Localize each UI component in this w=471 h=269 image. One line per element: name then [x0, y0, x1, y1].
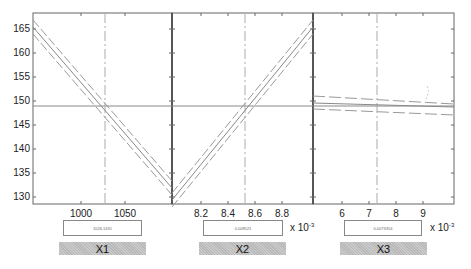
x2-label: X2 [199, 242, 286, 255]
axes-x2 [172, 13, 313, 204]
y-tick-labels: 165 160 155 150 145 140 135 130 [13, 23, 30, 202]
svg-text:8.2: 8.2 [194, 208, 208, 219]
x-tick-labels: 1000 1050 8.2 8.4 8.6 8.8 6 7 8 9 [70, 208, 426, 219]
x3-curves [313, 86, 454, 115]
x1-curves [33, 20, 172, 195]
svg-text:8: 8 [393, 208, 399, 219]
x2-exponent-label: x 10-3 [290, 222, 314, 233]
x1-label: X1 [59, 242, 146, 255]
axes-x3 [313, 13, 454, 204]
svg-text:8.6: 8.6 [248, 208, 262, 219]
x2-curves [172, 20, 313, 207]
svg-text:140: 140 [13, 143, 30, 154]
x2-value-input[interactable]: 0.008521 [203, 220, 283, 236]
svg-text:8.4: 8.4 [221, 208, 235, 219]
svg-text:150: 150 [13, 95, 30, 106]
svg-text:160: 160 [13, 47, 30, 58]
svg-text:135: 135 [13, 167, 30, 178]
svg-text:165: 165 [13, 23, 30, 34]
svg-text:9: 9 [420, 208, 426, 219]
svg-text:6: 6 [339, 208, 345, 219]
axes-x1 [33, 13, 172, 204]
x1-value-input[interactable]: 1026.1431 [63, 220, 142, 236]
svg-text:1050: 1050 [114, 208, 137, 219]
svg-text:145: 145 [13, 119, 30, 130]
svg-text:130: 130 [13, 191, 30, 202]
x3-value-input[interactable]: 0.0073354 [344, 220, 422, 236]
svg-text:7: 7 [366, 208, 372, 219]
svg-text:8.8: 8.8 [275, 208, 289, 219]
x3-label: X3 [340, 242, 427, 255]
x3-exponent-label: x 10-3 [430, 222, 454, 233]
svg-text:1000: 1000 [70, 208, 93, 219]
svg-text:155: 155 [13, 71, 30, 82]
